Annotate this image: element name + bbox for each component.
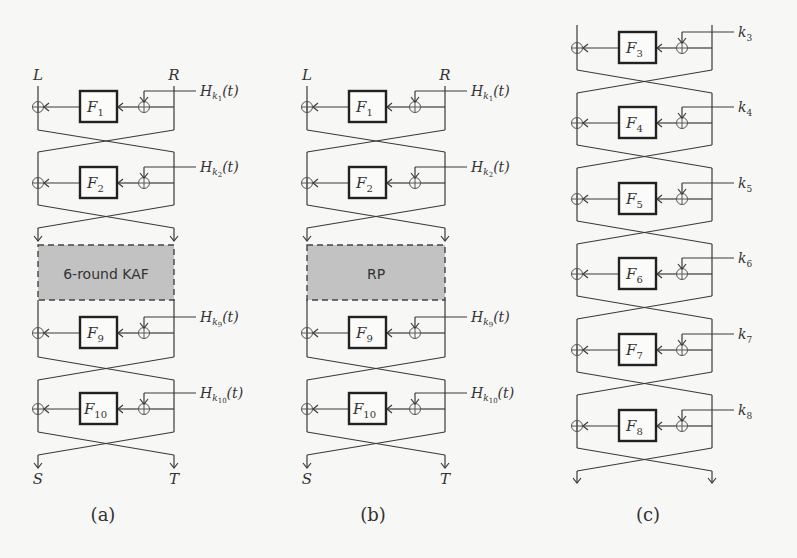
xor-icon: [677, 43, 688, 54]
subkey-label: k4: [738, 99, 752, 118]
xor-icon: [302, 102, 313, 113]
input-left-label: L: [301, 66, 312, 84]
xor-icon: [677, 194, 688, 205]
output-right-label: T: [440, 470, 451, 488]
wire-swap: [307, 357, 445, 380]
xor-icon: [139, 328, 150, 339]
middle-block: RP: [307, 245, 445, 300]
subkey-label: k6: [738, 250, 752, 269]
output-right-label: T: [169, 470, 180, 488]
wire-swap: [577, 70, 712, 93]
feistel-round: F1Hk1(t): [33, 83, 239, 122]
input-right-label: R: [438, 66, 450, 84]
xor-icon: [302, 404, 313, 415]
feistel-round: F1Hk1(t): [302, 83, 510, 122]
middle-block: 6-round KAF: [38, 245, 174, 300]
wire-swap: [38, 130, 174, 152]
xor-icon: [572, 118, 583, 129]
xor-icon: [677, 118, 688, 129]
subkey-label: Hk1(t): [199, 83, 239, 103]
xor-icon: [572, 194, 583, 205]
xor-icon: [572, 43, 583, 54]
feistel-round: F4k4: [572, 99, 753, 138]
xor-icon: [410, 178, 421, 189]
round-function-box: F2: [80, 167, 117, 198]
panel-b: LRRPF1Hk1(t)F2Hk2(t)F9Hk9(t)F10Hk10(t)ST…: [301, 66, 514, 525]
feistel-round: F8k8: [572, 402, 753, 441]
wire-swap: [577, 296, 712, 319]
subkey-label: Hk10(t): [470, 385, 514, 405]
subkey-label: Hk2(t): [470, 159, 510, 179]
xor-icon: [572, 345, 583, 356]
round-function-box: F3: [619, 32, 656, 63]
xor-icon: [33, 328, 44, 339]
feistel-round: F9Hk9(t): [302, 309, 510, 348]
xor-icon: [33, 178, 44, 189]
round-function-box: F1: [80, 91, 117, 122]
feistel-round: F2Hk2(t): [33, 159, 239, 198]
xor-icon: [139, 102, 150, 113]
xor-icon: [572, 421, 583, 432]
round-function-box: F9: [80, 317, 117, 348]
panel-caption: (b): [360, 504, 386, 525]
round-function-box: F2: [349, 167, 386, 198]
wire-swap: [38, 357, 174, 380]
subkey-label: k7: [738, 326, 752, 345]
xor-icon: [302, 328, 313, 339]
xor-icon: [410, 102, 421, 113]
output-left-label: S: [33, 470, 43, 488]
feistel-round: F9Hk9(t): [33, 309, 239, 348]
xor-icon: [33, 404, 44, 415]
wire-swap: [577, 221, 712, 244]
panel-caption: (a): [91, 504, 116, 525]
feistel-round: F10Hk10(t): [302, 385, 515, 424]
xor-icon: [139, 178, 150, 189]
panel-a: LR6-round KAFF1Hk1(t)F2Hk2(t)F9Hk9(t)F10…: [32, 66, 243, 525]
feistel-round: F7k7: [572, 326, 753, 365]
round-function-box: F5: [619, 183, 656, 214]
subkey-label: k3: [738, 24, 752, 43]
wire-swap: [38, 205, 174, 228]
wire-swap: [38, 432, 174, 455]
round-function-box: F6: [619, 258, 656, 289]
wire-swap: [577, 372, 712, 395]
feistel-round: F10Hk10(t): [33, 385, 244, 424]
xor-icon: [572, 269, 583, 280]
subkey-label: Hk10(t): [199, 385, 243, 405]
wire-swap: [577, 448, 712, 471]
xor-icon: [33, 102, 44, 113]
round-function-box: F1: [349, 91, 386, 122]
feistel-diagram: LR6-round KAFF1Hk1(t)F2Hk2(t)F9Hk9(t)F10…: [0, 0, 797, 558]
round-function-box: F10: [80, 393, 117, 424]
feistel-round: F2Hk2(t): [302, 159, 510, 198]
middle-block-label: RP: [367, 266, 385, 282]
input-left-label: L: [32, 66, 43, 84]
xor-icon: [677, 269, 688, 280]
round-function-box: F10: [349, 393, 386, 424]
wire-swap: [307, 130, 445, 152]
middle-block-label: 6-round KAF: [63, 266, 149, 282]
subkey-label: Hk1(t): [470, 83, 510, 103]
panel-c: F3k3F4k4F5k5F6k6F7k7F8k8(c): [572, 24, 753, 525]
round-function-box: F9: [349, 317, 386, 348]
xor-icon: [677, 345, 688, 356]
subkey-label: Hk9(t): [199, 309, 239, 329]
subkey-label: k8: [738, 402, 752, 421]
output-left-label: S: [302, 470, 312, 488]
wire-swap: [307, 432, 445, 455]
xor-icon: [410, 328, 421, 339]
feistel-round: F6k6: [572, 250, 753, 289]
round-function-box: F7: [619, 334, 656, 365]
xor-icon: [410, 404, 421, 415]
xor-icon: [302, 178, 313, 189]
panel-caption: (c): [636, 504, 660, 525]
subkey-label: Hk9(t): [470, 309, 510, 329]
subkey-label: Hk2(t): [199, 159, 239, 179]
round-function-box: F4: [619, 107, 656, 138]
xor-icon: [677, 421, 688, 432]
wire-swap: [577, 145, 712, 168]
wire-swap: [307, 205, 445, 228]
input-right-label: R: [167, 66, 179, 84]
feistel-round: F5k5: [572, 175, 753, 214]
round-function-box: F8: [619, 410, 656, 441]
